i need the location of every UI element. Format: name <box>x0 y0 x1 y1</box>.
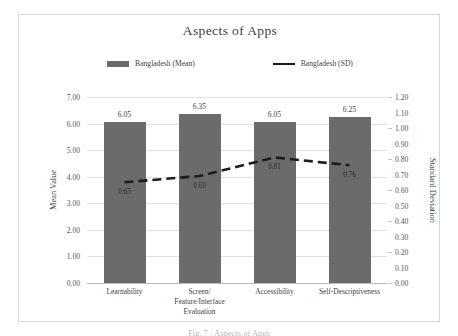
y-axis-right-tick-label: 0.60 <box>395 186 408 195</box>
line-series-bangladesh-sd <box>87 97 387 283</box>
y-axis-right-tick-label: 0.30 <box>395 232 408 241</box>
x-axis-category-label: Learnability <box>82 287 168 297</box>
y-axis-right-tick-label: 0.40 <box>395 217 408 226</box>
y-axis-right-tick-mark <box>388 159 392 160</box>
y-axis-right-tick-mark <box>388 128 392 129</box>
y-axis-left-tick-label: 7.00 <box>67 93 80 102</box>
y-axis-left-tick-label: 0.00 <box>67 279 80 288</box>
sd-value-label: 0.76 <box>343 171 356 179</box>
y-axis-left-tick-label: 1.00 <box>67 252 80 261</box>
y-axis-right-tick-label: 1.00 <box>395 124 408 133</box>
y-axis-left-tick-label: 3.00 <box>67 199 80 208</box>
legend-label-sd: Bangladesh (SD) <box>301 59 353 68</box>
y-axis-right-title: Standard Deviation <box>428 97 437 283</box>
gridline <box>87 283 387 284</box>
y-axis-right-tick-label: 0.80 <box>395 155 408 164</box>
legend-line-swatch-icon <box>273 63 295 65</box>
y-axis-left-tick-label: 5.00 <box>67 146 80 155</box>
chart-frame: Aspects of Apps Bangladesh (Mean) Bangla… <box>18 14 440 322</box>
sd-value-label: 0.81 <box>268 163 281 171</box>
y-axis-left-title: Mean Value <box>49 97 58 283</box>
x-axis-category-line: Accessibility <box>232 287 318 297</box>
y-axis-left-tick-label: 2.00 <box>67 225 80 234</box>
legend-item-sd[interactable]: Bangladesh (SD) <box>273 59 353 68</box>
x-axis-category-line: Evaluation <box>157 307 243 317</box>
x-axis-category-line: Learnability <box>82 287 168 297</box>
x-axis-category-line: Feature/Interface <box>157 297 243 307</box>
y-axis-right-tick-label: 0.50 <box>395 201 408 210</box>
x-axis-category-labels: LearnabilityScreen/Feature/InterfaceEval… <box>87 287 387 331</box>
y-axis-right-tick-mark <box>388 252 392 253</box>
figure-caption: Fig. 7 : Aspects of Apps <box>0 328 458 336</box>
x-axis-category-line: Screen/ <box>157 287 243 297</box>
y-axis-right-tick-label: 1.20 <box>395 93 408 102</box>
y-axis-right-tick-label: 1.10 <box>395 108 408 117</box>
y-axis-right-tick-mark <box>388 283 392 284</box>
x-axis-category-line: Self-Descriptiveness <box>307 287 393 297</box>
y-axis-right-tick-label: 0.00 <box>395 279 408 288</box>
y-axis-right-tick-label: 0.70 <box>395 170 408 179</box>
y-axis-right-tick-label: 0.10 <box>395 263 408 272</box>
y-axis-left-tick-label: 6.00 <box>67 119 80 128</box>
x-axis-category-label: Self-Descriptiveness <box>307 287 393 297</box>
x-axis-category-label: Accessibility <box>232 287 318 297</box>
legend-bar-swatch-icon <box>107 61 129 67</box>
y-axis-right-tick-label: 0.90 <box>395 139 408 148</box>
y-axis-right-tick-mark <box>388 221 392 222</box>
legend-label-mean: Bangladesh (Mean) <box>135 59 195 68</box>
y-axis-right-tick-mark <box>388 97 392 98</box>
sd-value-label: 0.65 <box>118 188 131 196</box>
y-axis-right-tick-label: 0.20 <box>395 248 408 257</box>
sd-value-label: 0.69 <box>193 182 206 190</box>
x-axis-category-label: Screen/Feature/InterfaceEvaluation <box>157 287 243 317</box>
plot-area: 0.001.002.003.004.005.006.007.00 0.000.1… <box>87 97 387 283</box>
chart-legend: Bangladesh (Mean) Bangladesh (SD) <box>19 59 441 68</box>
y-axis-left-tick-label: 4.00 <box>67 172 80 181</box>
chart-title: Aspects of Apps <box>19 23 441 39</box>
legend-item-mean[interactable]: Bangladesh (Mean) <box>107 59 195 68</box>
y-axis-right-tick-mark <box>388 190 392 191</box>
